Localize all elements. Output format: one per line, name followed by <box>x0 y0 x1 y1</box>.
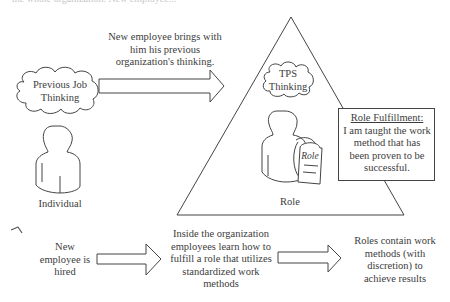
role-tag-text: Role <box>299 150 321 163</box>
top-arrow-caption: New employee brings with him his previou… <box>100 31 230 69</box>
role-fulfillment-box: Role Fulfillment: I am taught the work m… <box>338 108 435 181</box>
step-roles-contain-methods: Roles contain work methods (with discret… <box>345 235 445 285</box>
role-fulfillment-title: Role Fulfillment: <box>339 112 435 125</box>
role-label: Role <box>270 196 310 209</box>
person-icon-individual <box>36 126 80 193</box>
previous-thinking-label: Previous Job Thinking <box>20 79 100 104</box>
step-new-employee-hired: New employee is hired <box>32 241 98 279</box>
cursor-mark-icon <box>11 227 22 233</box>
bottom-arrow-icon-1 <box>97 244 161 275</box>
step-learn-role: Inside the organization employees learn … <box>160 228 282 291</box>
individual-label: Individual <box>20 198 100 211</box>
role-tag-icon <box>298 143 322 184</box>
tps-thinking-label: TPS Thinking <box>262 68 314 93</box>
bottom-arrow-icon-2 <box>278 245 341 272</box>
top-arrow-icon <box>99 70 224 102</box>
